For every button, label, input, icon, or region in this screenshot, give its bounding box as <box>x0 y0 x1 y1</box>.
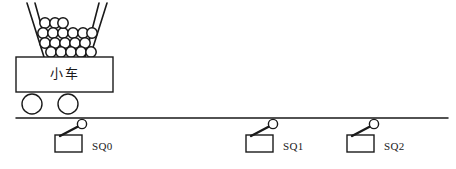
switch-body <box>246 135 273 152</box>
limit-switches: SQ0SQ1SQ2 <box>55 119 404 152</box>
material-ball <box>86 47 96 57</box>
material-ball <box>66 47 76 57</box>
cart-wheel <box>22 94 42 114</box>
switch-roller <box>77 119 86 128</box>
switch-roller <box>369 119 378 128</box>
material-ball <box>58 18 68 28</box>
material-ball <box>40 18 50 28</box>
limit-switch-sq1[interactable]: SQ1 <box>246 119 303 152</box>
funnel-hopper <box>27 3 107 57</box>
material-ball <box>56 47 66 57</box>
limit-switch-sq2[interactable]: SQ2 <box>347 119 404 152</box>
switch-label: SQ1 <box>283 140 303 152</box>
material-ball <box>76 47 86 57</box>
switch-label: SQ0 <box>92 140 113 152</box>
material-ball <box>46 47 56 57</box>
limit-switch-sq0[interactable]: SQ0 <box>55 119 113 152</box>
switch-body <box>347 135 374 152</box>
cart: 小车 <box>16 57 113 114</box>
material-cart-diagram: 小车 SQ0SQ1SQ2 <box>0 0 456 169</box>
material-ball <box>58 28 68 38</box>
material-balls <box>38 18 97 57</box>
material-ball <box>87 28 97 38</box>
cart-wheel <box>58 94 78 114</box>
material-ball <box>38 28 48 38</box>
switch-label: SQ2 <box>384 140 404 152</box>
cart-wheels <box>22 94 78 114</box>
switch-body <box>55 135 82 152</box>
material-ball <box>48 28 58 38</box>
material-ball <box>68 28 78 38</box>
diagram-canvas: 小车 SQ0SQ1SQ2 <box>0 0 456 169</box>
switch-roller <box>268 119 277 128</box>
cart-label: 小车 <box>50 66 80 81</box>
